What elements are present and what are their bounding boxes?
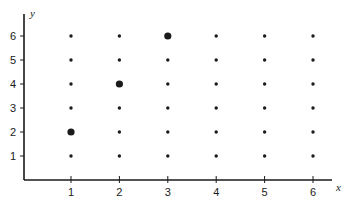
highlighted-point [116,80,123,87]
data-points [67,32,314,157]
lattice-point [118,154,121,157]
y-tick-label: 3 [10,102,16,114]
y-ticks: 123456 [10,30,24,162]
lattice-point [69,34,72,37]
lattice-point [69,82,72,85]
lattice-point [263,154,266,157]
lattice-point [118,130,121,133]
lattice-point [263,34,266,37]
y-tick-label: 4 [10,78,16,90]
lattice-point [311,154,314,157]
lattice-point [215,154,218,157]
lattice-point [166,82,169,85]
lattice-point [311,130,314,133]
lattice-point [311,58,314,61]
y-tick-label: 1 [10,150,16,162]
x-tick-label: 6 [310,186,316,198]
lattice-point [215,58,218,61]
scatter-chart: 123456 123456 y x [0,0,348,205]
lattice-point [118,34,121,37]
lattice-point [166,130,169,133]
y-axis-label: y [29,7,35,19]
y-tick-label: 2 [10,126,16,138]
lattice-point [215,82,218,85]
lattice-point [166,154,169,157]
x-tick-label: 5 [262,186,268,198]
lattice-point [166,106,169,109]
lattice-point [118,58,121,61]
lattice-point [215,106,218,109]
highlighted-point [67,128,74,135]
lattice-point [311,106,314,109]
lattice-point [311,34,314,37]
lattice-point [69,106,72,109]
lattice-point [69,58,72,61]
y-tick-label: 6 [10,30,16,42]
x-tick-label: 1 [68,186,74,198]
lattice-point [263,130,266,133]
lattice-point [215,130,218,133]
x-tick-label: 4 [213,186,219,198]
x-axis-label: x [335,181,341,193]
x-tick-label: 3 [165,186,171,198]
lattice-point [263,58,266,61]
lattice-point [263,82,266,85]
x-tick-label: 2 [116,186,122,198]
lattice-point [311,82,314,85]
lattice-point [263,106,266,109]
lattice-point [69,154,72,157]
lattice-point [118,106,121,109]
lattice-point [166,58,169,61]
lattice-point [215,34,218,37]
y-tick-label: 5 [10,54,16,66]
highlighted-point [164,32,171,39]
